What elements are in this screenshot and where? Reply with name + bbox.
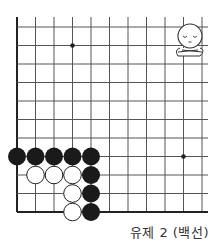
black-stone <box>82 148 100 166</box>
black-stone <box>82 166 100 184</box>
go-board <box>0 0 223 244</box>
white-stone <box>64 166 82 184</box>
white-stone <box>27 166 45 184</box>
black-stone <box>64 148 82 166</box>
white-stone <box>64 185 82 203</box>
black-stone <box>82 203 100 221</box>
thinking-face-icon <box>176 24 203 56</box>
black-stone <box>45 148 63 166</box>
black-stone <box>27 148 45 166</box>
black-stone <box>8 148 26 166</box>
white-stone <box>64 203 82 221</box>
board-grid <box>17 17 208 212</box>
white-stone <box>45 166 63 184</box>
problem-caption: 유제 2 (백선) <box>130 222 209 241</box>
black-stone <box>82 185 100 203</box>
